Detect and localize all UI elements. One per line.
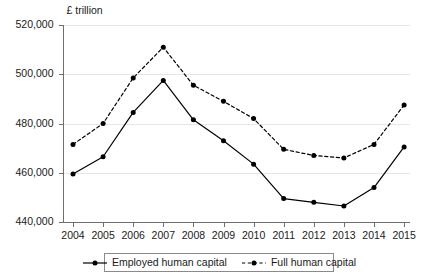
- x-axis-tick: [163, 223, 164, 227]
- data-point-marker: [341, 203, 346, 208]
- y-axis-tick: [59, 173, 63, 174]
- y-axis-tick-label: 460,000: [0, 166, 54, 178]
- data-point-marker: [131, 75, 136, 80]
- data-point-marker: [311, 153, 316, 158]
- x-axis-tick-label: 2005: [87, 229, 119, 241]
- y-axis-tick: [59, 222, 63, 223]
- legend-label: Employed human capital: [112, 257, 227, 268]
- line-chart: £ trillion 520,000500,000480,000460,0004…: [0, 0, 424, 280]
- x-axis-tick-label: 2014: [358, 229, 390, 241]
- data-point-marker: [402, 144, 407, 149]
- data-point-marker: [372, 142, 377, 147]
- x-axis-tick: [404, 223, 405, 227]
- legend-entry-2: Full human capital: [241, 257, 356, 268]
- gridline: [64, 124, 411, 125]
- data-point-marker: [251, 116, 256, 121]
- series-line-1: [73, 80, 404, 206]
- gridline: [64, 25, 411, 26]
- chart-legend: Employed human capitalFull human capital: [104, 253, 334, 272]
- x-axis-tick: [254, 223, 255, 227]
- x-axis-tick: [344, 223, 345, 227]
- data-point-marker: [71, 142, 76, 147]
- x-axis-tick-label: 2010: [238, 229, 270, 241]
- x-axis-tick-label: 2012: [298, 229, 330, 241]
- series-line-2: [73, 47, 404, 158]
- x-axis-tick: [133, 223, 134, 227]
- x-axis-tick-label: 2007: [147, 229, 179, 241]
- y-axis-tick: [59, 74, 63, 75]
- y-axis-unit-label: £ trillion: [67, 4, 103, 16]
- data-point-marker: [251, 162, 256, 167]
- legend-swatch-dashed-line-icon: [241, 258, 267, 268]
- data-point-marker: [161, 78, 166, 83]
- data-point-marker: [161, 45, 166, 50]
- gridline: [64, 74, 411, 75]
- x-axis-tick-label: 2006: [117, 229, 149, 241]
- data-point-marker: [311, 200, 316, 205]
- data-point-marker: [131, 110, 136, 115]
- x-axis-tick: [374, 223, 375, 227]
- y-axis-tick: [59, 124, 63, 125]
- legend-entry-1: Employed human capital: [82, 257, 227, 268]
- data-point-marker: [221, 99, 226, 104]
- x-axis-tick: [224, 223, 225, 227]
- x-axis-tick: [73, 223, 74, 227]
- y-axis-tick-label: 440,000: [0, 215, 54, 227]
- x-axis-tick-label: 2004: [57, 229, 89, 241]
- data-point-marker: [221, 138, 226, 143]
- data-point-marker: [372, 185, 377, 190]
- x-axis-tick: [103, 223, 104, 227]
- x-axis-tick-label: 2011: [268, 229, 300, 241]
- x-axis-tick: [314, 223, 315, 227]
- y-axis-tick: [59, 25, 63, 26]
- legend-label: Full human capital: [271, 257, 356, 268]
- x-axis-tick-label: 2013: [328, 229, 360, 241]
- y-axis-tick-label: 500,000: [0, 67, 54, 79]
- legend-swatch-solid-line-icon: [82, 258, 108, 268]
- data-point-marker: [402, 103, 407, 108]
- x-axis-tick-label: 2008: [177, 229, 209, 241]
- data-point-marker: [191, 117, 196, 122]
- x-axis-tick-label: 2015: [388, 229, 420, 241]
- data-point-marker: [191, 83, 196, 88]
- x-axis-tick: [193, 223, 194, 227]
- data-point-marker: [341, 155, 346, 160]
- data-point-marker: [281, 196, 286, 201]
- data-point-marker: [281, 147, 286, 152]
- x-axis-tick-label: 2009: [208, 229, 240, 241]
- y-axis-tick-label: 480,000: [0, 117, 54, 129]
- gridline: [64, 173, 411, 174]
- x-axis-line: [63, 222, 411, 223]
- y-axis-tick-label: 520,000: [0, 18, 54, 30]
- data-point-marker: [101, 154, 106, 159]
- x-axis-tick: [284, 223, 285, 227]
